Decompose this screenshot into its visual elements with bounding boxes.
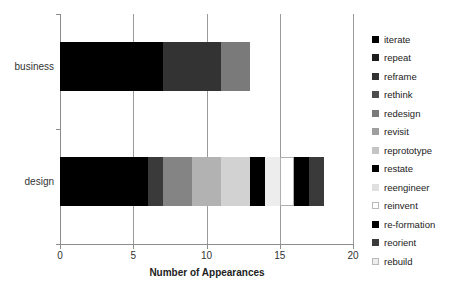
legend-item[interactable]: reprototype (372, 141, 452, 160)
x-axis-tick-label: 20 (333, 250, 373, 261)
y-axis-tick (56, 14, 61, 15)
bar-segment-re-formation[interactable] (294, 157, 309, 206)
legend-item[interactable]: restate (372, 160, 452, 179)
legend-item[interactable]: reengineer (372, 178, 452, 197)
bar-segment-iterate[interactable] (60, 42, 163, 91)
legend-label: revisit (384, 127, 409, 137)
bar-segment-reorient[interactable] (309, 157, 324, 206)
x-axis-title: Number of Appearances (60, 267, 354, 278)
legend-item[interactable]: reinvent (372, 197, 452, 216)
stacked-bar-chart: business design 05101520 Number of Appea… (0, 0, 452, 295)
x-axis-tick-label: 15 (260, 250, 300, 261)
grid-line (353, 14, 354, 244)
legend-label: reprototype (384, 146, 432, 156)
bar-segment-reframe[interactable] (163, 42, 222, 91)
bar-segment-reengineer[interactable] (265, 157, 280, 206)
legend-label: reorient (384, 238, 416, 248)
y-axis-label-design: design (2, 176, 54, 187)
x-axis-tick-label: 5 (113, 250, 153, 261)
legend-label: reengineer (384, 183, 429, 193)
legend-swatch-icon (372, 110, 379, 117)
legend-swatch-icon (372, 147, 379, 154)
bar-segment-redesign[interactable] (192, 157, 221, 206)
legend-label: restate (384, 164, 413, 174)
legend-swatch-icon (372, 73, 379, 80)
legend-item[interactable]: revisit (372, 123, 452, 142)
legend-swatch-icon (372, 221, 379, 228)
legend-label: redesign (384, 109, 420, 119)
legend-label: repeat (384, 53, 411, 63)
bar-segment-repeat[interactable] (148, 157, 163, 206)
legend-item[interactable]: redesign (372, 104, 452, 123)
x-axis-tick (133, 245, 134, 249)
legend-item[interactable]: reorient (372, 234, 452, 253)
legend-swatch-icon (372, 239, 379, 246)
legend-label: rebuild (384, 257, 413, 267)
grid-line (280, 14, 281, 244)
legend-label: re-formation (384, 220, 435, 230)
y-axis-label-business: business (2, 61, 54, 72)
bar-segment-redesign[interactable] (221, 42, 250, 91)
x-axis-tick (207, 245, 208, 249)
x-axis-tick (60, 245, 61, 249)
legend-item[interactable]: rebuild (372, 252, 452, 271)
bar-segment-revisit[interactable] (221, 157, 250, 206)
x-axis-tick-label: 0 (40, 250, 80, 261)
bar-segment-reinvent[interactable] (280, 157, 295, 206)
legend-swatch-icon (372, 36, 379, 43)
legend-item[interactable]: re-formation (372, 215, 452, 234)
legend-label: reinvent (384, 201, 418, 211)
legend-label: reframe (384, 72, 417, 82)
bar-segment-rethink[interactable] (163, 157, 192, 206)
legend-swatch-icon (372, 128, 379, 135)
legend-swatch-icon (372, 54, 379, 61)
legend-item[interactable]: iterate (372, 30, 452, 49)
legend-item[interactable]: rethink (372, 86, 452, 105)
bar-segment-iterate[interactable] (60, 157, 148, 206)
legend-item[interactable]: reframe (372, 67, 452, 86)
legend-swatch-icon (372, 258, 379, 265)
y-axis-tick (56, 129, 61, 130)
x-axis-tick (353, 245, 354, 249)
bar-design[interactable] (60, 157, 324, 206)
legend-label: iterate (384, 35, 410, 45)
legend-swatch-icon (372, 91, 379, 98)
bar-business[interactable] (60, 42, 250, 91)
legend: iteraterepeatreframerethinkredesignrevis… (372, 30, 452, 271)
x-axis-tick (280, 245, 281, 249)
legend-label: rethink (384, 90, 413, 100)
legend-swatch-icon (372, 165, 379, 172)
legend-swatch-icon (372, 202, 379, 209)
x-axis-tick-label: 10 (187, 250, 227, 261)
legend-swatch-icon (372, 184, 379, 191)
bar-segment-restate[interactable] (250, 157, 265, 206)
legend-item[interactable]: repeat (372, 49, 452, 68)
